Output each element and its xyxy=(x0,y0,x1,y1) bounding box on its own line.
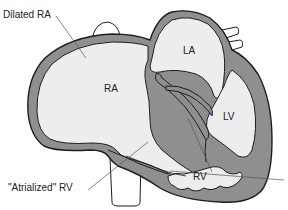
label-la: LA xyxy=(183,46,195,56)
label-lv: LV xyxy=(223,112,235,122)
heart-diagram xyxy=(0,0,288,210)
label-rv: RV xyxy=(193,172,207,182)
label-ra: RA xyxy=(104,84,118,94)
label-atrialized-rv: "Atrialized" RV xyxy=(8,183,73,193)
label-dilated-ra: Dilated RA xyxy=(3,10,51,20)
